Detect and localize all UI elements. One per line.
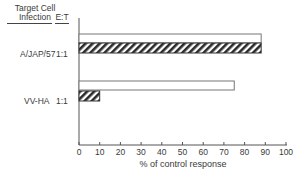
bar-hatched-0 bbox=[79, 43, 261, 53]
bar-open-1 bbox=[79, 81, 234, 90]
chart-plot bbox=[0, 0, 296, 175]
bar-open-0 bbox=[79, 34, 261, 43]
x-tick-label: 0 bbox=[77, 147, 82, 157]
x-tick-label: 20 bbox=[116, 147, 125, 157]
x-axis-title: % of control response bbox=[79, 159, 287, 169]
x-tick-label: 80 bbox=[240, 147, 249, 157]
x-tick-label: 40 bbox=[157, 147, 166, 157]
x-tick-label: 10 bbox=[95, 147, 104, 157]
x-tick-label: 70 bbox=[219, 147, 228, 157]
x-tick-label: 50 bbox=[178, 147, 187, 157]
x-tick-label: 60 bbox=[198, 147, 207, 157]
x-tick-label: 90 bbox=[261, 147, 270, 157]
bar-hatched-1 bbox=[79, 91, 100, 101]
bars bbox=[79, 34, 261, 101]
x-tick-label: 100 bbox=[279, 147, 293, 157]
x-tick-label: 30 bbox=[136, 147, 145, 157]
